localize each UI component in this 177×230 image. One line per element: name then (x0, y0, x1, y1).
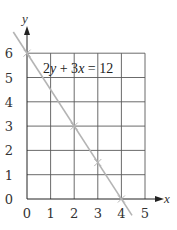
y-tick-label: 3 (5, 119, 13, 134)
graph: y x 012345 0123456 2y + 3x = 12 (0, 0, 177, 230)
y-tick-label: 6 (5, 46, 13, 61)
x-tick-label: 3 (94, 206, 102, 221)
eq-part: = 12 (84, 61, 113, 76)
eq-part: 2 (43, 61, 50, 76)
x-tick-label: 1 (46, 206, 54, 221)
x-axis-label: x (163, 191, 170, 206)
x-tick-label: 4 (117, 206, 125, 221)
y-tick-label: 0 (5, 192, 13, 207)
line-2y-plus-3x-eq-12 (13, 32, 132, 215)
x-tick-label: 5 (141, 206, 149, 221)
y-axis-arrow-icon (24, 26, 30, 35)
y-tick-label: 2 (5, 143, 13, 158)
y-tick-labels: 0123456 (5, 46, 13, 207)
equation-label: 2y + 3x = 12 (43, 61, 113, 76)
x-axis-arrow-icon (155, 196, 164, 202)
x-tick-label: 0 (23, 206, 31, 221)
y-axis-label: y (20, 11, 28, 26)
y-tick-label: 5 (5, 71, 13, 86)
y-tick-label: 1 (5, 168, 13, 183)
eq-part: + 3 (56, 61, 78, 76)
y-tick-label: 4 (5, 95, 13, 110)
x-tick-label: 2 (70, 206, 78, 221)
